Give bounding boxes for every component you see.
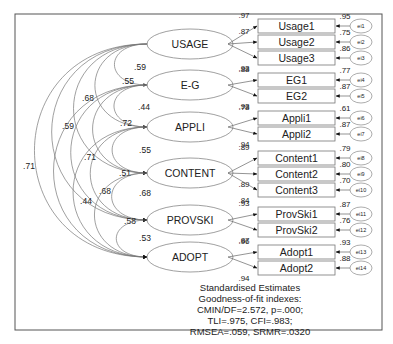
indicator-label: Content2 — [275, 168, 318, 180]
error-label: ei9 — [357, 171, 364, 177]
indicator-label: EG2 — [286, 90, 307, 102]
r-squared-value: .87 — [339, 200, 351, 209]
indicator-label: Adopt2 — [280, 262, 313, 274]
indicator-label: Appli1 — [282, 112, 311, 124]
correlation-value: .55 — [122, 76, 134, 86]
correlation-value: .44 — [80, 196, 92, 206]
correlation-value: .44 — [138, 102, 150, 112]
loading-path — [228, 118, 257, 127]
loading-value: .96 — [238, 237, 250, 246]
error-label: ei12 — [356, 227, 366, 233]
fit-heading: Goodness-of-fit indexes: — [150, 293, 350, 304]
error-label: ei13 — [356, 249, 366, 255]
loading-value: .89 — [238, 143, 250, 152]
r-squared-value: .61 — [339, 104, 351, 113]
r-squared-value: .76 — [339, 216, 351, 225]
error-label: ei5 — [357, 93, 364, 99]
indicators: Usage1.97ei1.95Usage2.87ei2.75Usage3.93e… — [228, 11, 372, 283]
latent-label: APPLI — [175, 121, 205, 133]
r-squared-value: .79 — [339, 144, 351, 153]
indicator-label: Content1 — [275, 152, 318, 164]
loading-value: .87 — [238, 27, 250, 36]
correlation-arc — [54, 85, 147, 257]
error-label: ei10 — [356, 187, 366, 193]
fit-line-rmsea: RMSEA=.059, SRMR=.0320 — [150, 326, 350, 337]
correlation-value: .55 — [139, 145, 151, 155]
error-label: ei6 — [357, 115, 364, 121]
error-label: ei8 — [357, 155, 364, 161]
error-label: ei3 — [357, 55, 364, 61]
correlation-arcs: .59.55.68.59.71.44.72.71.44.55.51.68.68.… — [23, 44, 151, 257]
loading-value: .78 — [238, 103, 250, 112]
latent-label: USAGE — [172, 38, 209, 50]
indicator-label: ProvSki1 — [275, 208, 317, 220]
loading-value: .88 — [238, 65, 250, 74]
correlation-value: .53 — [139, 233, 151, 243]
indicator-label: ProvSki2 — [275, 224, 317, 236]
indicator-label: Usage3 — [278, 52, 314, 64]
indicator-label: Usage1 — [278, 20, 314, 32]
fit-line-cmin: CMIN/DF=2.572, p=.000; — [150, 304, 350, 315]
r-squared-value: .75 — [339, 28, 351, 37]
fit-line-tli: TLI=.975, CFI=.983; — [150, 315, 350, 326]
indicator-label: EG1 — [286, 74, 307, 86]
error-label: ei7 — [357, 131, 364, 137]
correlation-value: .72 — [120, 118, 132, 128]
loading-path — [228, 85, 257, 96]
loading-path — [228, 44, 257, 58]
indicator-label: Adopt1 — [280, 246, 313, 258]
loading-value: .93 — [238, 199, 250, 208]
estimates-title: Standardised Estimates — [150, 282, 350, 293]
latent-label: E-G — [181, 79, 200, 91]
r-squared-value: .88 — [339, 254, 351, 263]
loading-path — [228, 257, 257, 268]
loading-path — [228, 220, 257, 230]
error-label: ei1 — [357, 23, 364, 29]
indicator-label: Content3 — [275, 184, 318, 196]
correlation-value: .68 — [82, 93, 94, 103]
r-squared-value: .95 — [339, 12, 351, 21]
correlation-value: .68 — [139, 188, 151, 198]
fit-summary: Standardised Estimates Goodness-of-fit i… — [150, 282, 350, 337]
error-label: ei11 — [356, 211, 366, 217]
error-label: ei2 — [357, 39, 364, 45]
latent-variables: USAGEE-GAPPLICONTENTPROVSKIADOPT — [147, 29, 233, 272]
correlation-value: .59 — [134, 62, 146, 72]
loading-value: .97 — [238, 11, 250, 20]
r-squared-value: .93 — [339, 238, 351, 247]
correlation-value: .71 — [23, 161, 35, 171]
error-label: ei14 — [356, 265, 366, 271]
latent-label: ADOPT — [172, 251, 209, 263]
indicator-label: Usage2 — [278, 36, 314, 48]
latent-label: PROVSKI — [167, 214, 214, 226]
r-squared-value: .80 — [339, 160, 351, 169]
loading-value: .89 — [238, 180, 250, 189]
latent-label: CONTENT — [165, 167, 216, 179]
r-squared-value: .87 — [339, 82, 351, 91]
correlation-value: .68 — [99, 186, 111, 196]
r-squared-value: .87 — [339, 120, 351, 129]
loading-path — [228, 158, 257, 173]
r-squared-value: .70 — [339, 176, 351, 185]
indicator-label: Appli2 — [282, 128, 311, 140]
error-label: ei4 — [357, 77, 364, 83]
r-squared-value: .86 — [339, 44, 351, 53]
r-squared-value: .77 — [339, 66, 351, 75]
